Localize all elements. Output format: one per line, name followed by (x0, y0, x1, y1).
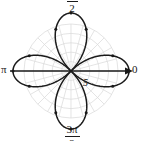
three-pi-over-2-numerator: 3π (52, 124, 92, 135)
axis-label-pi-over-2: π 2 (54, 0, 90, 14)
polar-plot-figure: π 2 3π 2 π 0 5 (0, 0, 143, 141)
axis-label-pi: π (1, 64, 7, 75)
radial-tick-label-5: 5 (83, 78, 88, 88)
pi-over-2-denominator: 2 (54, 3, 90, 14)
axis-label-three-pi-over-2: 3π 2 (52, 124, 92, 141)
three-pi-over-2-denominator: 2 (52, 138, 92, 141)
polar-plot-canvas (0, 0, 143, 141)
axis-label-zero: 0 (132, 64, 138, 75)
